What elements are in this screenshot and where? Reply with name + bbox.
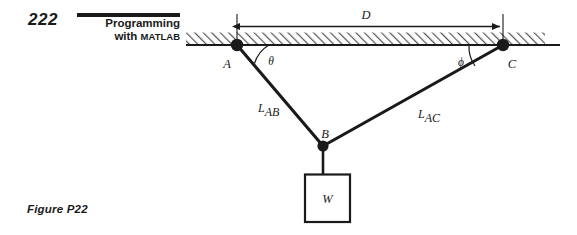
cable-ac-label: LAC <box>417 107 441 125</box>
cable-ab-label: LAB <box>257 101 280 119</box>
node-b-label: B <box>321 127 329 141</box>
cable-ab <box>237 45 323 146</box>
node-labels: A C B <box>222 57 517 141</box>
cable-ac-label-sub: AC <box>424 111 441 125</box>
angle-theta-arc <box>255 45 270 64</box>
node-a-dot <box>231 39 243 51</box>
cable-ab-label-sub: AB <box>264 105 280 119</box>
book-page-figure: 222 Programming with Matlab <box>0 0 577 235</box>
cable-length-labels: LAB LAC <box>257 101 441 125</box>
node-c-dot <box>497 39 509 51</box>
node-c-label: C <box>508 57 517 71</box>
cable-ac <box>323 45 503 146</box>
weight-block: W <box>305 175 350 223</box>
node-b-dot <box>317 140 328 151</box>
angle-arcs: θ ϕ <box>255 45 476 69</box>
figure-caption: Figure P22 <box>27 203 88 215</box>
dimension-d-label: D <box>360 8 370 22</box>
figure-diagram: D θ ϕ A C B <box>0 0 577 235</box>
weight-label: W <box>322 192 334 206</box>
angle-theta-label: θ <box>268 55 274 67</box>
node-a-label: A <box>222 57 231 71</box>
